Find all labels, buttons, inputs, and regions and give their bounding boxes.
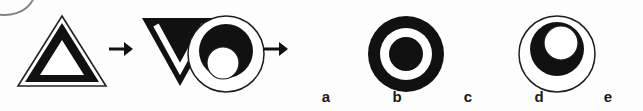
option-b-crescent-light-outline[interactable] [517,14,597,96]
option-label-a: a [306,88,346,105]
arrow-right-icon-1 [108,40,134,111]
triangle-outline-shape [16,14,108,88]
option-label-d: d [519,88,559,105]
analogy-row [0,0,643,90]
puzzle-sheet: a b c d e [0,0,643,111]
circle-with-offset-crescent-figure [186,14,266,96]
option-a-bullseye[interactable] [366,14,446,96]
option-label-b: b [377,88,417,105]
option-label-e: e [588,88,628,105]
arrow-right-icon-2 [263,40,289,111]
triangle-outline-figure [16,14,108,96]
option-label-c: c [448,88,488,105]
